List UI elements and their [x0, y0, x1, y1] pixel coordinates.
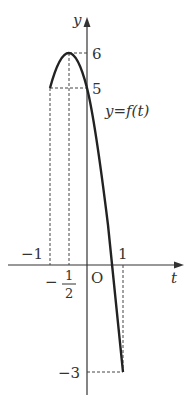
function-label: y=f(t) [104, 102, 149, 120]
y-axis-label: y [72, 11, 82, 29]
t-tick-1: 1 [118, 245, 128, 263]
t-tick-minus-half: − 1 2 [45, 268, 76, 301]
fraction-denominator: 2 [65, 286, 73, 301]
t-tick-minus-1: −1 [21, 245, 43, 263]
origin-label: O [91, 269, 103, 287]
fraction-numerator: 1 [65, 268, 73, 283]
t-axis-arrow-icon [174, 262, 184, 269]
graph: y t O 6 5 y=f(t) −3 −1 1 − 1 2 [0, 0, 186, 401]
t-axis-label: t [171, 269, 178, 287]
y-axis-arrow-icon [84, 17, 91, 27]
minus-sign: − [45, 273, 58, 291]
y-tick-5: 5 [92, 80, 102, 98]
y-tick-minus-3: −3 [58, 364, 80, 382]
y-tick-6: 6 [92, 45, 102, 63]
